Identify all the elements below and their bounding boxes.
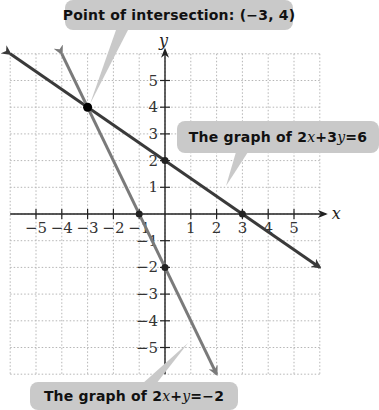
intersection-label-value: −3, 4 — [246, 7, 288, 23]
line1-coef-a: 2 — [297, 129, 307, 145]
y-tick-label: −4 — [136, 312, 158, 330]
line2-label: The graph of 2x + y = −2 — [30, 382, 238, 410]
x-tick-label: 2 — [212, 219, 222, 237]
axes: xy — [10, 31, 341, 374]
y-tick-label: −2 — [136, 258, 158, 276]
y-tick-label: 5 — [148, 72, 158, 90]
intersection-label-prefix: Point of intersection: ( — [63, 7, 247, 23]
y-axis-label: y — [158, 31, 169, 50]
y-tick-label: 4 — [148, 98, 158, 116]
series-point — [162, 264, 169, 271]
y-tick-label: 1 — [148, 178, 158, 196]
line1-var-x: x — [307, 129, 315, 145]
series-point — [239, 211, 246, 218]
coordinate-plane: xy −5−4−3−2−11234554321−1−2−3−4−5 — [0, 0, 379, 410]
y-tick-label: 3 — [148, 125, 158, 143]
x-tick-label: 5 — [289, 219, 299, 237]
x-tick-label: −3 — [77, 219, 99, 237]
line1-rhs: 6 — [357, 129, 367, 145]
x-tick-label: −4 — [51, 219, 73, 237]
line1-plus: + — [315, 129, 327, 145]
line2-var-y: y — [182, 388, 190, 404]
line2-label-prefix: The graph of — [44, 388, 147, 404]
line1-coef-b: 3 — [327, 129, 337, 145]
y-tick-label: −3 — [136, 285, 158, 303]
x-tick-label: 3 — [238, 219, 248, 237]
line1-equals: = — [345, 129, 357, 145]
intersection-pointer — [90, 30, 128, 104]
line2-rhs: −2 — [202, 388, 224, 404]
line1-label-prefix: The graph of — [189, 129, 292, 145]
intersection-label-suffix: ) — [289, 7, 296, 23]
x-axis-label: x — [332, 204, 341, 223]
x-tick-label: 1 — [186, 219, 196, 237]
line1-var-y: y — [337, 129, 345, 145]
line2-equals: = — [190, 388, 202, 404]
line1-label: The graph of 2x + 3y = 6 — [177, 121, 379, 153]
intersection-point — [83, 103, 92, 112]
intersection-label: Point of intersection: (−3, 4) — [65, 0, 293, 30]
line2-var-x: x — [162, 388, 170, 404]
line2-coef-a: 2 — [152, 388, 162, 404]
x-tick-label: −2 — [102, 219, 124, 237]
x-tick-label: −5 — [25, 219, 47, 237]
y-tick-label: −5 — [136, 339, 158, 357]
line2-plus: + — [170, 388, 182, 404]
series-point — [136, 211, 143, 218]
series-point — [162, 157, 169, 164]
line1-pointer — [226, 152, 248, 186]
